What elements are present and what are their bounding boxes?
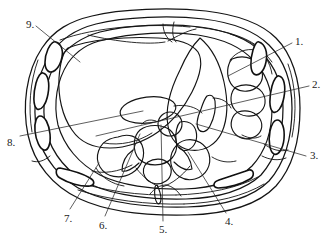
label-7: 7. xyxy=(64,213,72,224)
inferior-vena-cava xyxy=(176,121,197,150)
pancreas-oval xyxy=(119,94,202,127)
leader-3 xyxy=(196,124,306,156)
label-2: 2. xyxy=(312,79,320,90)
label-5: 5. xyxy=(159,224,167,235)
label-8: 8. xyxy=(7,137,15,148)
label-3: 3. xyxy=(310,150,318,161)
vertebral-complex xyxy=(122,126,192,204)
spinous-process xyxy=(155,185,161,204)
outer-body-wall xyxy=(25,9,300,215)
label-9: 9. xyxy=(26,19,34,30)
anatomy-diagram-svg xyxy=(0,0,327,237)
right-rib-cross-sections xyxy=(214,42,285,188)
label-4: 4. xyxy=(225,216,233,227)
label-1: 1. xyxy=(295,36,303,47)
anatomy-figure: 1.2.3.4.5.6.7.8.9. xyxy=(0,0,327,237)
label-6: 6. xyxy=(99,220,107,231)
